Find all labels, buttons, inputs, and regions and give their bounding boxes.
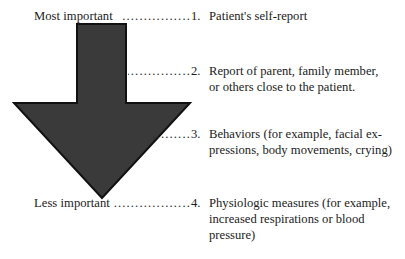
list-item-line: Behaviors (for example, facial ex- <box>209 126 405 142</box>
list-item-line: increased respirations or blood <box>209 211 405 227</box>
axis-label-most-important: Most important <box>34 9 113 24</box>
list-item-line: Patient's self-report <box>209 8 405 24</box>
dot-leader-3: .............. <box>151 127 191 142</box>
list-item-line: or others close to the patient. <box>209 79 405 95</box>
list-item: 3. Behaviors (for example, facial ex- pr… <box>191 126 405 158</box>
list-item-text: Physiologic measures (for example, incre… <box>209 195 405 244</box>
axis-label-less-important: Less important <box>34 196 110 211</box>
list-item: 2. Report of parent, family member, or o… <box>191 63 405 95</box>
list-item: 1. Patient's self-report <box>191 8 405 24</box>
list-item-text: Report of parent, family member, or othe… <box>209 63 405 95</box>
list-item-line: pressions, body movements, crying) <box>209 142 405 158</box>
list-item-line: Physiologic measures (for example, <box>209 195 405 211</box>
dot-leader-1: ........................... <box>121 9 191 24</box>
list-item-number: 1. <box>191 8 209 24</box>
list-item-line: Report of parent, family member, <box>209 63 405 79</box>
dot-leader-2: ................... <box>128 64 191 79</box>
dot-leader-4: ............................. <box>113 196 191 211</box>
list-item: 4. Physiologic measures (for example, in… <box>191 195 405 244</box>
list-item-number: 3. <box>191 126 209 142</box>
list-item-line: pressure) <box>209 227 405 243</box>
list-item-text: Patient's self-report <box>209 8 405 24</box>
downward-arrow-icon <box>8 22 198 200</box>
list-item-number: 4. <box>191 195 209 211</box>
pain-assessment-hierarchy-figure: Most important Less important ..........… <box>0 0 405 259</box>
list-item-text: Behaviors (for example, facial ex- press… <box>209 126 405 158</box>
list-item-number: 2. <box>191 63 209 79</box>
